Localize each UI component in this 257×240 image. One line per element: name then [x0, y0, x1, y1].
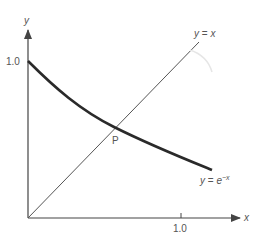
- faint-artifact: [190, 50, 212, 72]
- curve-label: y = e−x: [199, 174, 230, 186]
- line-label: y = x: [193, 28, 216, 39]
- diagram-canvas: y x 1.0 1.0 P y = x y = e−x: [0, 0, 257, 240]
- line-y-equals-x: [28, 42, 199, 218]
- intersection-label: P: [112, 135, 119, 146]
- curve-exp-neg-x: [28, 61, 212, 170]
- y-axis-label: y: [23, 15, 30, 26]
- x-axis-label: x: [243, 212, 250, 223]
- curve-label-exponent: −x: [222, 174, 230, 181]
- line-label-var: x: [209, 28, 216, 39]
- y-tick-label: 1.0: [6, 56, 20, 67]
- x-tick-label: 1.0: [173, 223, 187, 234]
